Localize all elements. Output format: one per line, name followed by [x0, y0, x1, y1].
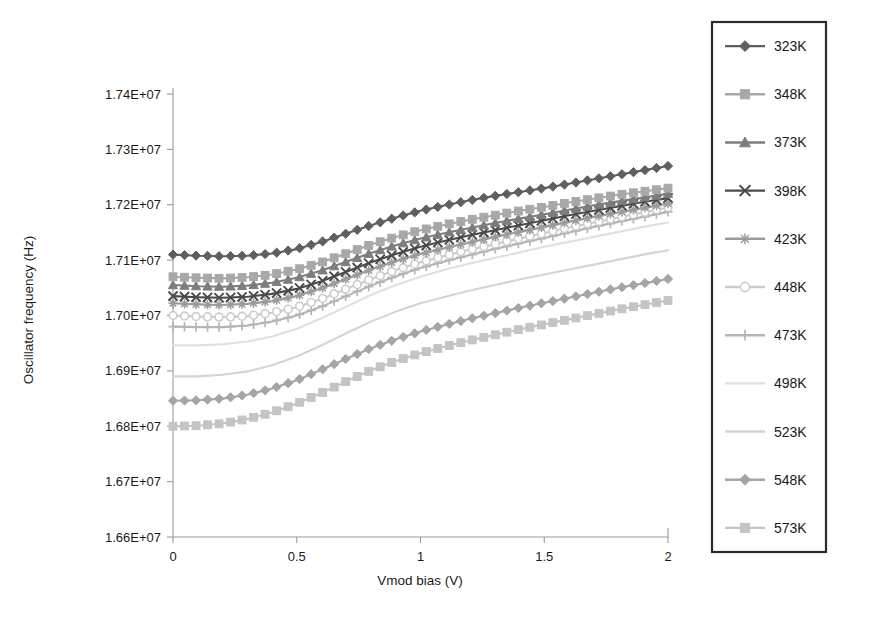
series-marker — [284, 403, 292, 411]
x-tick-label: 0 — [169, 549, 176, 564]
series-marker — [740, 523, 749, 532]
series-marker — [653, 299, 661, 307]
series-marker — [630, 303, 638, 311]
y-tick-label: 1.66E+07 — [105, 530, 161, 545]
series-marker — [365, 242, 373, 250]
series-marker — [307, 261, 315, 269]
series-marker — [480, 213, 488, 221]
series-marker — [457, 218, 465, 226]
y-tick-label: 1.72E+07 — [105, 197, 161, 212]
oscillator-frequency-chart: Oscillator frequency (Hz) Vmod bias (V) … — [0, 0, 880, 632]
series-marker — [549, 319, 557, 327]
series-marker — [457, 248, 465, 256]
series-marker — [595, 194, 603, 202]
series-marker — [192, 313, 200, 321]
series-marker — [595, 309, 603, 317]
y-tick-label: 1.67E+07 — [105, 474, 161, 489]
legend-entry-label: 323K — [774, 38, 807, 54]
series-marker — [296, 398, 304, 406]
series-marker — [365, 367, 373, 375]
series-marker — [227, 418, 235, 426]
chart-legend[interactable]: 323K348K373K398K423K448K473K498K523K548K… — [712, 22, 826, 552]
y-axis-title: Oscillator frequency (Hz) — [21, 236, 36, 385]
series-marker — [664, 297, 672, 305]
series-marker — [468, 215, 476, 223]
legend-entry-label: 473K — [774, 327, 807, 343]
legend-entry-label: 523K — [774, 424, 807, 440]
series-marker — [560, 316, 568, 324]
series-marker — [261, 410, 269, 418]
series-marker — [388, 234, 396, 242]
series-marker — [526, 323, 534, 331]
series-marker — [261, 310, 269, 318]
series-marker — [307, 394, 315, 402]
series-marker — [664, 184, 672, 192]
series-marker — [653, 186, 661, 194]
series-marker — [740, 90, 749, 99]
series-marker — [445, 220, 453, 228]
series-marker — [434, 222, 442, 230]
series-marker — [480, 333, 488, 341]
legend-entry-label: 548K — [774, 472, 807, 488]
series-marker — [740, 282, 749, 291]
series-marker — [411, 260, 419, 268]
series-marker — [584, 196, 592, 204]
series-marker — [181, 273, 189, 281]
series-marker — [422, 225, 430, 233]
series-marker — [491, 331, 499, 339]
series-marker — [284, 267, 292, 275]
series-marker — [192, 422, 200, 430]
series-marker — [284, 305, 292, 313]
series-marker — [227, 313, 235, 321]
series-marker — [169, 312, 177, 320]
series-marker — [491, 211, 499, 219]
series-marker — [215, 274, 223, 282]
series-marker — [204, 274, 212, 282]
series-marker — [192, 274, 200, 282]
series-marker — [399, 231, 407, 239]
series-marker — [330, 383, 338, 391]
series-marker — [169, 422, 177, 430]
x-axis-title-text: Vmod bias (V) — [377, 573, 463, 588]
series-marker — [411, 351, 419, 359]
series-marker — [353, 373, 361, 381]
series-marker — [261, 271, 269, 279]
series-marker — [169, 273, 177, 281]
series-marker — [468, 336, 476, 344]
series-marker — [376, 238, 384, 246]
series-marker — [330, 254, 338, 262]
x-tick-label: 2 — [664, 549, 671, 564]
series-marker — [503, 209, 511, 217]
series-marker — [618, 190, 626, 198]
series-marker — [227, 274, 235, 282]
series-marker — [353, 246, 361, 254]
y-tick-label: 1.70E+07 — [105, 308, 161, 323]
series-marker — [296, 265, 304, 273]
series-marker — [250, 413, 258, 421]
series-marker — [641, 301, 649, 309]
series-marker — [181, 422, 189, 430]
series-marker — [607, 307, 615, 315]
y-tick-label: 1.69E+07 — [105, 363, 161, 378]
series-marker — [399, 264, 407, 272]
series-marker — [445, 342, 453, 350]
series-marker — [215, 420, 223, 428]
series-marker — [537, 321, 545, 329]
series-marker — [204, 313, 212, 321]
legend-entry-label: 348K — [774, 86, 807, 102]
y-tick-label: 1.73E+07 — [105, 142, 161, 157]
series-marker — [388, 359, 396, 367]
legend-entry-label: 423K — [774, 231, 807, 247]
series-marker — [204, 421, 212, 429]
series-marker — [434, 345, 442, 353]
series-marker — [503, 328, 511, 336]
series-marker — [215, 313, 223, 321]
series-marker — [342, 378, 350, 386]
series-marker — [422, 257, 430, 265]
series-marker — [273, 270, 281, 278]
series-marker — [376, 363, 384, 371]
series-marker — [618, 305, 626, 313]
legend-entry-label: 398K — [774, 183, 807, 199]
series-marker — [181, 312, 189, 320]
y-tick-label: 1.68E+07 — [105, 419, 161, 434]
